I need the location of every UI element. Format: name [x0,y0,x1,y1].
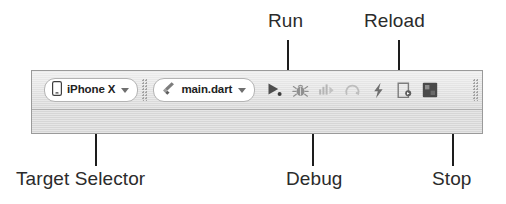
debug-button[interactable] [289,78,311,102]
stop-square-icon [422,82,438,98]
run-configuration-value: main.dart [181,84,232,96]
annotation-label-target-selector: Target Selector [16,168,145,190]
toolbar-drag-handle[interactable] [473,79,478,101]
flutter-dart-icon [161,81,176,100]
hot-reload-button[interactable] [367,78,389,102]
toolbar-controls-row: iPhone X main.dart [32,71,482,109]
toolbar-drag-handle[interactable] [142,79,147,101]
annotation-label-debug: Debug [286,168,343,190]
observatory-button[interactable] [341,78,363,102]
hot-restart-button[interactable] [393,78,415,102]
annotation-label-stop: Stop [432,168,472,190]
target-selector-combo[interactable]: iPhone X [44,78,138,102]
stop-button[interactable] [419,78,441,102]
annotation-label-reload: Reload [364,10,425,32]
target-selector-value: iPhone X [67,84,115,96]
bug-icon [292,82,309,99]
profile-button[interactable] [315,78,337,102]
lightning-bolt-icon [372,82,385,99]
ide-toolbar: iPhone X main.dart [31,70,483,134]
annotation-label-run: Run [268,10,303,32]
device-restart-icon [397,82,412,99]
run-button[interactable] [263,78,285,102]
play-triangle-icon [266,82,283,98]
toolbar-divider [32,109,482,110]
chevron-down-icon [238,88,246,93]
phone-icon [52,81,62,100]
observatory-spiral-icon [344,82,361,98]
run-configuration-combo[interactable]: main.dart [153,78,255,102]
profile-bars-icon [318,82,335,98]
chevron-down-icon [121,88,129,93]
